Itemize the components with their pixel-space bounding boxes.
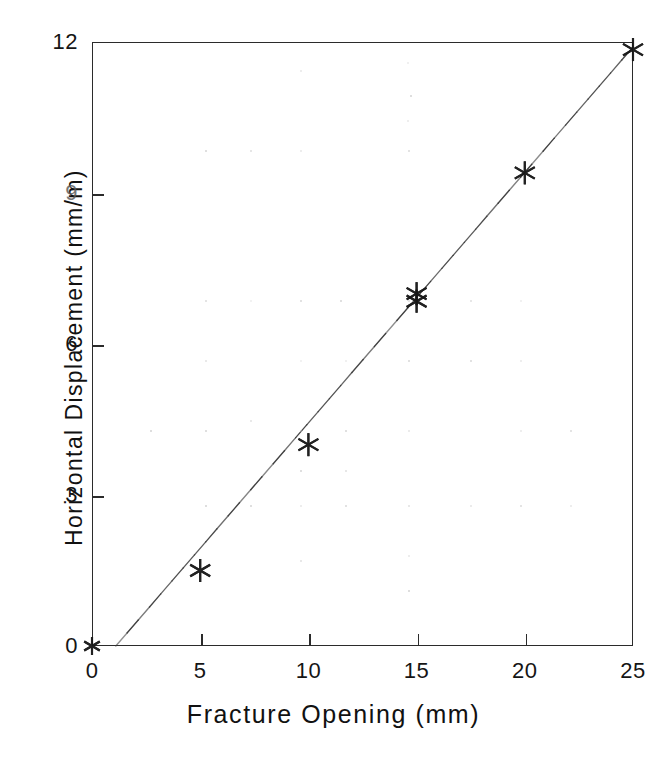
scan-speckle [345,505,347,507]
scan-speckle [408,360,410,362]
y-tick-mark [93,345,104,347]
scan-speckle [340,300,342,302]
scan-speckle [205,505,207,507]
scan-speckle [250,150,252,152]
scan-speckle [345,430,347,432]
scan-speckle [410,95,412,97]
scan-speckle [408,505,410,507]
plot-area [92,42,633,646]
scan-speckle [408,150,410,152]
scan-speckle [205,150,207,152]
y-axis-title: Horizontal Displacement (mm/m) [61,56,88,660]
scan-speckle [470,360,472,362]
scan-speckle [250,300,252,302]
y-tick-label: 9 [0,180,78,206]
y-tick-mark [93,194,104,196]
scan-speckle [150,430,152,432]
scan-speckle [250,420,252,422]
scan-speckle [300,430,302,432]
scan-speckle [300,360,302,362]
scan-speckle [520,360,522,362]
scan-speckle [300,505,302,507]
x-tick-label: 15 [404,658,429,684]
x-tick-label: 10 [296,658,321,684]
x-tick-mark [201,634,203,645]
x-tick-label: 20 [512,658,537,684]
scan-speckle [408,300,410,302]
scan-speckle [300,300,302,302]
x-tick-label: 0 [86,658,99,684]
scan-speckle [205,430,207,432]
scan-speckle [407,120,409,122]
scan-speckle [300,150,302,152]
scan-speckle [408,430,410,432]
chart-figure: Horizontal Displacement (mm/m) Fracture … [0,0,667,763]
y-tick-label: 6 [0,331,78,357]
scan-speckle [570,430,572,432]
scan-speckle [300,470,302,472]
x-tick-label: 25 [620,658,645,684]
scan-speckle [250,505,252,507]
scan-speckle [520,430,522,432]
scan-speckle [408,555,410,557]
scan-speckle [408,590,410,592]
x-tick-mark [526,634,528,645]
y-tick-label: 3 [0,482,78,508]
scan-speckle [407,62,409,64]
y-tick-mark [93,496,104,498]
scan-speckle [345,470,347,472]
scan-speckle [345,360,347,362]
x-tick-label: 5 [194,658,207,684]
scan-speckle [470,505,472,507]
x-tick-mark [309,634,311,645]
x-axis-title: Fracture Opening (mm) [0,700,667,729]
scan-speckle [205,360,207,362]
y-tick-label: 0 [0,633,78,659]
scan-speckle [520,505,522,507]
scan-speckle [570,505,572,507]
scan-speckle [205,300,207,302]
x-tick-mark [418,634,420,645]
scan-speckle [300,560,302,562]
scan-speckle [470,300,472,302]
y-tick-label: 12 [0,29,78,55]
scan-speckle [520,300,522,302]
scan-speckle [300,70,302,72]
